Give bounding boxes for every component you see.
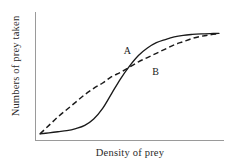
curve-b-label: B: [152, 67, 159, 77]
curve-a-label: A: [124, 46, 131, 56]
plot-area: [0, 0, 225, 166]
x-axis-label: Density of prey: [35, 147, 225, 158]
y-axis-label: Numbers of prey taken: [10, 5, 21, 127]
y-axis-label-rotator: Numbers of prey taken: [10, 5, 26, 127]
functional-response-chart: A B Density of prey Numbers of prey take…: [0, 0, 225, 166]
